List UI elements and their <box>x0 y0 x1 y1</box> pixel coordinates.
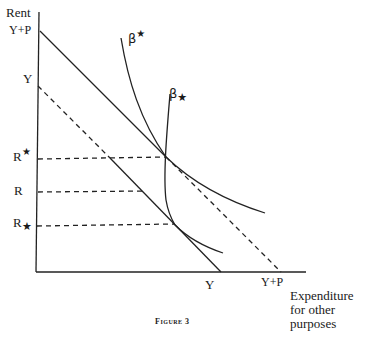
y-tick-y-plus-p: Y+P <box>9 24 31 36</box>
curve-label-beta-upper: β★ <box>128 32 145 45</box>
budget-line-y-dashed <box>38 86 110 158</box>
rent-level-r-star-upper <box>38 157 166 159</box>
y-tick-r-star-upper: R★ <box>13 150 31 163</box>
indifference-curve-beta-lower <box>165 94 223 253</box>
x-axis-label-line: Expenditure <box>290 289 354 303</box>
cropped-text-above <box>0 0 369 2</box>
y-axis <box>36 12 39 272</box>
y-tick-r-star-lower: R★ <box>13 216 32 229</box>
budget-line-y-plus-p-dashed <box>166 157 281 272</box>
rent-level-r <box>38 191 146 192</box>
y-tick-r: R <box>14 184 23 197</box>
y-axis-label: Rent <box>6 6 31 19</box>
curve-label-beta-lower: β★ <box>169 87 187 100</box>
y-tick-y: Y <box>23 72 32 85</box>
rent-level-r-star-lower <box>37 224 174 226</box>
indifference-curve-beta-upper <box>121 38 265 213</box>
figure-3-diagram: Rent Y+P Y R★ R R★ Y Y+P β★ β★ Expenditu… <box>0 0 369 340</box>
star-mark-icon: ★ <box>22 146 31 157</box>
x-axis-label: Expenditure for other purposes <box>290 289 354 331</box>
x-tick-y: Y <box>205 278 214 291</box>
x-axis-label-line: for other <box>290 303 354 317</box>
star-mark-icon: ★ <box>22 220 32 232</box>
budget-line-y-plus-p-solid <box>40 31 166 157</box>
star-mark-icon: ★ <box>136 28 145 39</box>
star-mark-icon: ★ <box>177 91 187 104</box>
x-axis-label-line: purposes <box>290 317 354 331</box>
x-tick-y-plus-p: Y+P <box>261 276 283 288</box>
figure-caption: Figure 3 <box>155 317 190 326</box>
